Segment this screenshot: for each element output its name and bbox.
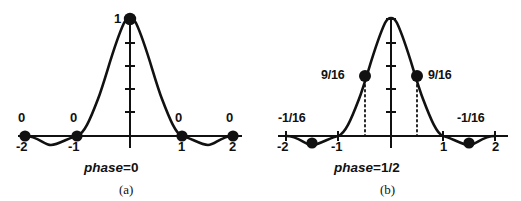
x-tick-label-b-2: 2 — [492, 140, 499, 153]
chart-panel-b: 9/16 9/16 -1/16 -1/16 -2 -1 1 2 phase=1/… — [260, 0, 521, 201]
sample-label-a-0: 0 — [18, 111, 25, 124]
sample-label-b-inner-left: 9/16 — [321, 69, 345, 82]
x-tick-label-a-minus1: -1 — [68, 140, 79, 153]
panel-sublabel-b: (b) — [380, 183, 395, 196]
x-tick-label-a-1: 1 — [178, 140, 185, 153]
sample-label-a-2: 0 — [175, 111, 182, 124]
sample-label-a-1: 0 — [70, 111, 77, 124]
x-tick-label-a-minus2: -2 — [16, 140, 27, 153]
sample-label-b-inner-right: 9/16 — [428, 69, 452, 82]
x-tick-label-b-1: 1 — [440, 140, 447, 153]
phase-annotation-a-text: phase — [84, 160, 123, 175]
phase-annotation-b-text: phase — [334, 160, 373, 175]
panel-sublabel-a: (a) — [119, 183, 133, 196]
sample-dot-peak — [124, 13, 136, 25]
sample-dot — [463, 137, 474, 148]
x-tick-label-b-minus1: -1 — [331, 140, 342, 153]
sample-dot — [359, 70, 371, 82]
x-tick-label-a-2: 2 — [229, 140, 236, 153]
x-tick-label-b-minus2: -2 — [277, 140, 288, 153]
phase-annotation-a-value: 0 — [131, 160, 139, 175]
phase-annotation-b-value: 1/2 — [381, 160, 400, 175]
sample-label-b-outer-right: -1/16 — [457, 112, 485, 125]
phase-annotation-a: phase=0 — [84, 161, 138, 175]
sample-dot — [411, 70, 423, 82]
phase-annotation-b-eq: = — [373, 160, 381, 175]
sample-label-a-3: 0 — [226, 111, 233, 124]
phase-annotation-a-eq: = — [123, 160, 131, 175]
figure-container: 0 0 1 0 0 -2 -1 1 2 phase=0 (a) — [0, 0, 521, 201]
sample-dot — [306, 137, 317, 148]
sample-label-b-outer-left: -1/16 — [278, 112, 306, 125]
chart-panel-a: 0 0 1 0 0 -2 -1 1 2 phase=0 (a) — [0, 0, 260, 201]
phase-annotation-b: phase=1/2 — [334, 161, 400, 175]
sample-label-a-peak: 1 — [114, 12, 121, 25]
